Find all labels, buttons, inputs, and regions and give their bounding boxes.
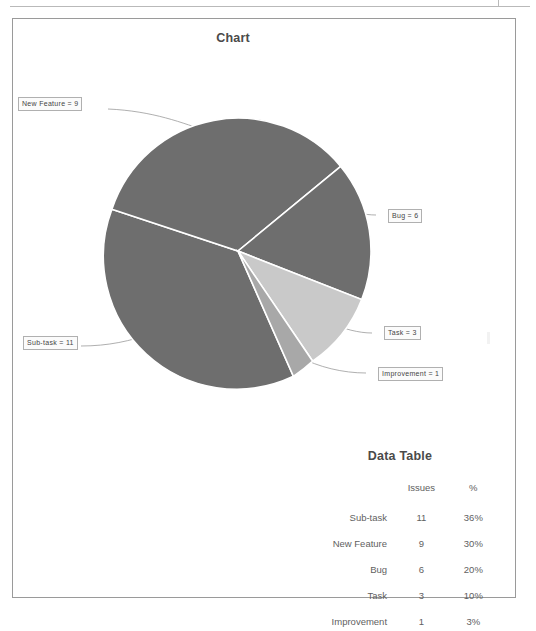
row-label: Sub-task xyxy=(271,505,397,531)
table-body: Sub-task 11 36% New Feature 9 30% Bug 6 … xyxy=(271,505,501,631)
pie-slice-task xyxy=(238,251,362,361)
row-issues: 6 xyxy=(397,557,446,583)
table-header-row: Issues % xyxy=(271,479,501,505)
row-label: New Feature xyxy=(271,531,397,557)
row-issues: 3 xyxy=(397,583,446,609)
callout-label-improvement: Improvement = 1 xyxy=(378,367,443,381)
chart-title: Chart xyxy=(13,31,515,45)
pie-slice-improvement xyxy=(238,251,313,376)
callout-label-bug: Bug = 6 xyxy=(388,209,422,223)
report-page-panel: Chart New Feature = 9 Bug = 6 Task = 3 I… xyxy=(12,18,516,598)
pie-slice-new-feature xyxy=(112,118,341,251)
row-label: Bug xyxy=(271,557,397,583)
row-issues: 9 xyxy=(397,531,446,557)
scan-artifact xyxy=(487,332,490,344)
row-issues: 11 xyxy=(397,505,446,531)
data-table: Issues % Sub-task 11 36% New Feature 9 3… xyxy=(271,479,501,631)
row-percent: 20% xyxy=(446,557,501,583)
pie-slice-sub-task xyxy=(103,209,293,389)
table-row: Task 3 10% xyxy=(271,583,501,609)
row-issues: 1 xyxy=(397,609,446,631)
row-percent: 10% xyxy=(446,583,501,609)
data-table-title: Data Table xyxy=(271,449,501,463)
row-percent: 36% xyxy=(446,505,501,531)
row-percent: 30% xyxy=(446,531,501,557)
leader-line-improvement xyxy=(300,357,366,373)
callout-label-sub-task: Sub-task = 11 xyxy=(23,336,78,350)
row-label: Improvement xyxy=(271,609,397,631)
callout-label-new-feature: New Feature = 9 xyxy=(18,97,82,111)
data-table-block: Data Table Issues % Sub-task 11 36% New … xyxy=(271,449,501,631)
header-label xyxy=(271,479,397,505)
top-page-tick xyxy=(498,0,499,7)
row-label: Task xyxy=(271,583,397,609)
header-percent: % xyxy=(446,479,501,505)
leader-line-bug xyxy=(335,207,376,215)
leader-line-new-feature xyxy=(108,109,209,132)
table-row: Bug 6 20% xyxy=(271,557,501,583)
top-page-rule xyxy=(10,6,530,7)
header-issues: Issues xyxy=(397,479,446,505)
pie-slice-bug xyxy=(238,166,371,299)
row-percent: 3% xyxy=(446,609,501,631)
leader-line-sub-task xyxy=(81,333,153,346)
table-row: Sub-task 11 36% xyxy=(271,505,501,531)
callout-label-task: Task = 3 xyxy=(384,326,421,340)
leader-line-task xyxy=(328,322,372,333)
table-row: New Feature 9 30% xyxy=(271,531,501,557)
table-row: Improvement 1 3% xyxy=(271,609,501,631)
